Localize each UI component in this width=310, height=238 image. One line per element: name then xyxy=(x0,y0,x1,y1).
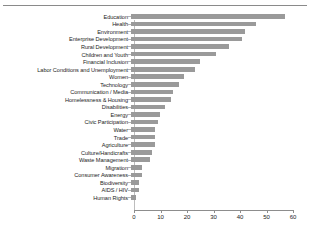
bar-row: Trade xyxy=(0,134,310,142)
bar xyxy=(131,67,195,72)
bar xyxy=(131,188,139,193)
bar-row: Biodiversity xyxy=(0,179,310,187)
bar xyxy=(131,29,245,34)
category-label: Environment xyxy=(0,29,131,35)
bar xyxy=(131,173,142,178)
category-label: Labor Conditions and Unemployment xyxy=(0,67,131,73)
bar xyxy=(131,90,173,95)
bar xyxy=(131,135,155,140)
bar-row: Financial Inclusion xyxy=(0,58,310,66)
category-label: Rural Development xyxy=(0,44,131,50)
bar-cell xyxy=(131,73,310,81)
bar-cell xyxy=(131,104,310,112)
bar-row: Children and Youth xyxy=(0,51,310,59)
bar xyxy=(131,112,160,117)
bar xyxy=(131,195,136,200)
bar-cell xyxy=(131,156,310,164)
x-tick xyxy=(293,210,294,213)
category-label: Enterprise Development xyxy=(0,36,131,42)
category-label: Financial Inclusion xyxy=(0,59,131,65)
bar xyxy=(131,59,200,64)
bar xyxy=(131,74,184,79)
bar-cell xyxy=(131,149,310,157)
category-label: Technology xyxy=(0,82,131,88)
bar-chart: EducationHealthEnvironmentEnterprise Dev… xyxy=(0,10,310,238)
category-label: Health xyxy=(0,21,131,27)
bar-row: Migration xyxy=(0,164,310,172)
bar-cell xyxy=(131,119,310,127)
category-label: Biodiversity xyxy=(0,180,131,186)
category-label: Civic Participation xyxy=(0,119,131,125)
bar xyxy=(131,120,158,125)
bar-row: Rural Development xyxy=(0,43,310,51)
bar-cell xyxy=(131,58,310,66)
bar xyxy=(131,82,179,87)
bar-row: Technology xyxy=(0,81,310,89)
bar-cell xyxy=(131,164,310,172)
bar-cell xyxy=(131,111,310,119)
bar-cell xyxy=(131,171,310,179)
bar-row: Culture/Handicrafts xyxy=(0,149,310,157)
category-label: Waste Management xyxy=(0,157,131,163)
bar-rows: EducationHealthEnvironmentEnterprise Dev… xyxy=(0,13,310,202)
x-tick xyxy=(134,210,135,213)
bar-row: Health xyxy=(0,21,310,29)
bar-row: Agriculture xyxy=(0,141,310,149)
bar-cell xyxy=(131,179,310,187)
bar-cell xyxy=(131,81,310,89)
bar-cell xyxy=(131,51,310,59)
top-divider xyxy=(3,5,307,6)
bar xyxy=(131,97,171,102)
x-tick xyxy=(187,210,188,213)
category-label: Disabilities xyxy=(0,104,131,110)
bar xyxy=(131,37,242,42)
bar-cell xyxy=(131,134,310,142)
bar-cell xyxy=(131,88,310,96)
bar-row: Human Rights xyxy=(0,194,310,202)
bar-row: Women xyxy=(0,73,310,81)
bar-row: Homelessness & Housing xyxy=(0,96,310,104)
bar-cell xyxy=(131,66,310,74)
x-tick-label: 60 xyxy=(285,214,301,221)
bar-row: Waste Management xyxy=(0,156,310,164)
bar xyxy=(131,157,150,162)
category-label: Trade xyxy=(0,135,131,141)
bar-cell xyxy=(131,96,310,104)
bar-row: Environment xyxy=(0,28,310,36)
category-label: Communication / Media xyxy=(0,89,131,95)
category-label: Children and Youth xyxy=(0,52,131,58)
x-tick xyxy=(267,210,268,213)
bar-cell xyxy=(131,126,310,134)
x-tick xyxy=(161,210,162,213)
bar-row: Enterprise Development xyxy=(0,36,310,44)
bar-cell xyxy=(131,13,310,21)
x-tick-label: 50 xyxy=(259,214,275,221)
bar-row: Civic Participation xyxy=(0,119,310,127)
category-label: Culture/Handicrafts xyxy=(0,150,131,156)
bar xyxy=(131,142,155,147)
bar xyxy=(131,105,165,110)
bar xyxy=(131,14,285,19)
bar-row: Communication / Media xyxy=(0,88,310,96)
bar xyxy=(131,127,155,132)
x-tick-label: 20 xyxy=(179,214,195,221)
chart-page: EducationHealthEnvironmentEnterprise Dev… xyxy=(0,0,310,238)
x-tick xyxy=(240,210,241,213)
bar-row: Consumer Awareness xyxy=(0,171,310,179)
bar-row: Energy xyxy=(0,111,310,119)
category-label: Homelessness & Housing xyxy=(0,97,131,103)
category-label: Consumer Awareness xyxy=(0,172,131,178)
category-label: Human Rights xyxy=(0,195,131,201)
category-label: Energy xyxy=(0,112,131,118)
bar-row: Water xyxy=(0,126,310,134)
bar-row: AIDS / HIV xyxy=(0,187,310,195)
bar-cell xyxy=(131,194,310,202)
x-tick-label: 40 xyxy=(232,214,248,221)
bar xyxy=(131,165,142,170)
bar xyxy=(131,22,256,27)
category-label: AIDS / HIV xyxy=(0,187,131,193)
bar-row: Education xyxy=(0,13,310,21)
category-label: Agriculture xyxy=(0,142,131,148)
bar xyxy=(131,44,229,49)
category-label: Education xyxy=(0,14,131,20)
